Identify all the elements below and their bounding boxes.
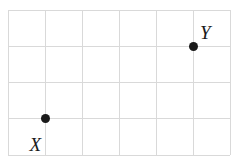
grid-line-vertical-6 <box>230 10 231 155</box>
grid-figure: XY <box>0 0 238 166</box>
point-label-y: Y <box>200 23 211 42</box>
point-label-x: X <box>29 135 41 154</box>
grid-line-horizontal-4 <box>8 155 230 156</box>
point-dot-y <box>189 42 198 51</box>
grid-line-horizontal-2 <box>8 82 230 83</box>
point-dot-x <box>41 114 50 123</box>
grid-line-horizontal-0 <box>8 10 230 11</box>
